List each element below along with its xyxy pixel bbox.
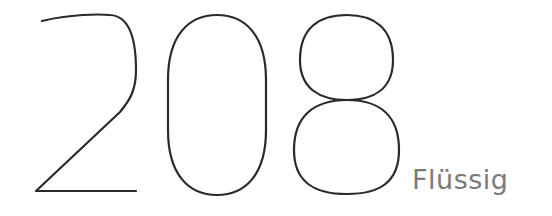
unit-label: Flüssig bbox=[412, 166, 508, 193]
digit-0 bbox=[168, 15, 266, 195]
digit-8 bbox=[294, 15, 399, 194]
digit-2 bbox=[36, 15, 136, 191]
